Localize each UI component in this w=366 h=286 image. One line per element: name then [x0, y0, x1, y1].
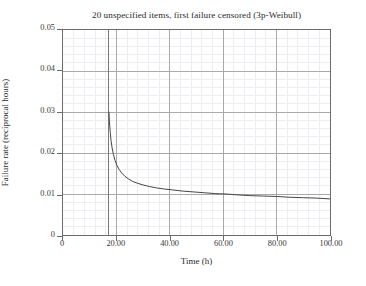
x-tick-label: 60.00 [214, 240, 233, 248]
x-tick-label: 80.00 [268, 240, 287, 248]
x-tick-mark [277, 236, 278, 241]
x-tick-label: 20.00 [106, 240, 125, 248]
x-axis-label: Time (h) [62, 256, 331, 266]
y-tick-label: 0.05 [40, 24, 55, 32]
series-line [109, 112, 330, 199]
y-axis-label: Failure rate (reciprocal hours) [0, 29, 14, 236]
y-tick-label: 0.01 [40, 190, 55, 198]
x-tick-mark [331, 236, 332, 241]
chart-title: 20 unspecified items, first failure cens… [62, 10, 331, 20]
y-tick-label: 0.03 [40, 107, 55, 115]
x-tick-label: 40.00 [160, 240, 179, 248]
y-tick-mark [57, 70, 62, 71]
failure-rate-chart: 20 unspecified items, first failure cens… [0, 0, 366, 286]
x-tick-mark [116, 236, 117, 241]
x-tick-label: 100.00 [319, 240, 342, 248]
y-tick-label: 0.04 [40, 65, 55, 73]
y-tick-label: 0 [51, 231, 55, 239]
y-tick-mark [57, 153, 62, 154]
data-curve-layer [63, 30, 330, 235]
y-tick-mark [57, 112, 62, 113]
x-tick-mark [170, 236, 171, 241]
x-tick-mark [62, 236, 63, 241]
x-tick-label: 0 [60, 240, 64, 248]
y-tick-label: 0.02 [40, 148, 55, 156]
y-tick-mark [57, 29, 62, 30]
y-tick-mark [57, 195, 62, 196]
plot-area [62, 29, 331, 236]
x-tick-mark [223, 236, 224, 241]
